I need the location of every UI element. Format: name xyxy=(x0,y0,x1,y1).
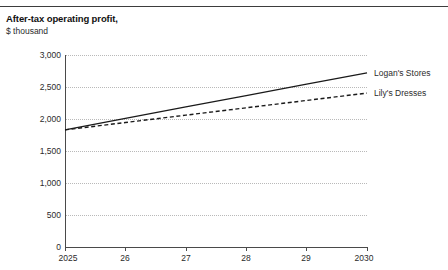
chart-figure: After-tax operating profit, $ thousand 3… xyxy=(0,0,448,270)
series-label-logans-stores: Logan's Stores xyxy=(374,68,430,78)
series-line-logans-stores xyxy=(65,73,367,130)
series-label-lilys-dresses: Lily's Dresses xyxy=(374,88,426,98)
series-line-lilys-dresses xyxy=(65,93,367,130)
series-lines xyxy=(0,0,448,270)
